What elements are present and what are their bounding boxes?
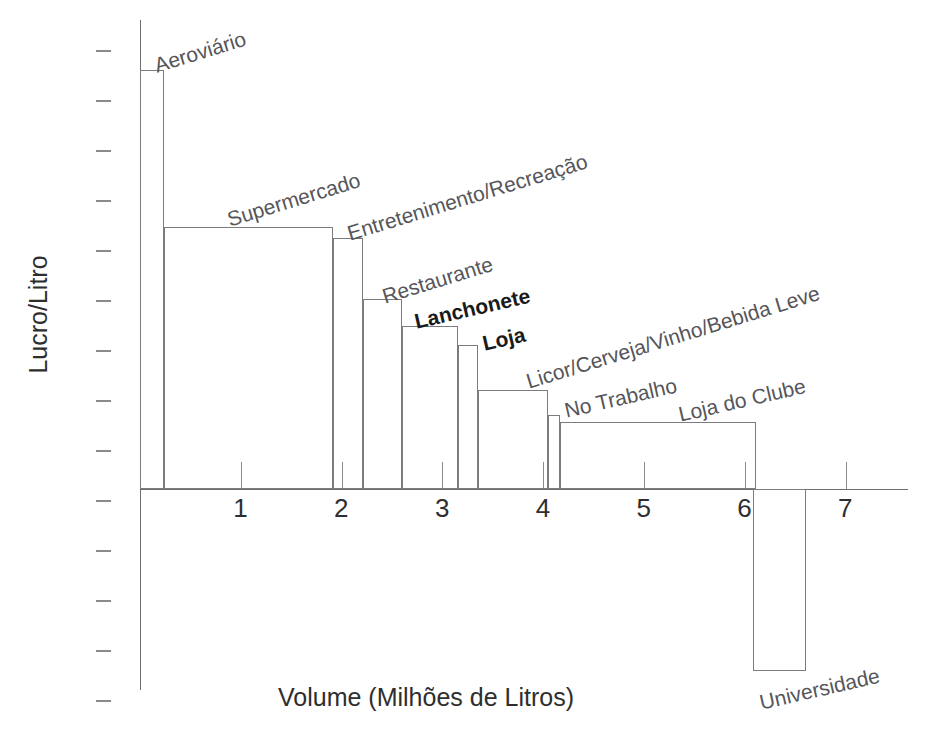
y-axis-tick (96, 550, 111, 552)
y-axis-tick (96, 200, 111, 202)
y-axis-tick (96, 250, 111, 252)
bar-label-aeroviario: Aeroviário (151, 27, 248, 78)
y-axis-tick (96, 600, 111, 602)
chart-canvas: 1234567 AeroviárioSupermercadoEntretenim… (0, 0, 926, 737)
x-axis-tick-label: 5 (624, 493, 664, 524)
bar-lanchonete (402, 326, 457, 489)
bar-label-loja: Loja (480, 323, 527, 356)
y-axis-title: Lucro/Litro (24, 215, 53, 415)
bar-no-trabalho (548, 415, 560, 489)
y-axis-tick (96, 350, 111, 352)
y-axis-tick (96, 150, 111, 152)
bar-label-no-trabalho: No Trabalho (562, 374, 679, 423)
bar-label-universidade: Universidade (757, 664, 882, 715)
x-axis-tick-label: 3 (422, 493, 462, 524)
y-axis-tick (96, 450, 111, 452)
y-axis-tick (96, 50, 111, 52)
bar-label-supermercado: Supermercado (224, 168, 363, 231)
y-axis-tick (96, 400, 111, 402)
bar-label-entretenimento-recreacao: Entretenimento/Recreação (344, 149, 590, 245)
bar-supermercado (164, 227, 332, 489)
y-axis-tick (96, 300, 111, 302)
x-axis-tick-label: 2 (322, 493, 362, 524)
bar-aeroviario (140, 70, 164, 489)
bar-restaurante (363, 299, 402, 489)
bar-loja-do-clube (560, 422, 756, 489)
bar-licor-cerveja-vinho-bebida-leve (478, 390, 549, 489)
y-axis-tick (96, 700, 111, 702)
y-axis-tick (96, 650, 111, 652)
x-axis-tick-label: 7 (826, 493, 866, 524)
x-axis-tick-label: 4 (523, 493, 563, 524)
bar-loja (458, 345, 478, 489)
y-axis-tick (96, 500, 111, 502)
bar-entretenimento-recreacao (333, 238, 363, 489)
x-axis-tick (846, 462, 847, 489)
x-axis-title: Volume (Milhões de Litros) (278, 683, 574, 712)
bar-universidade (753, 489, 806, 671)
bar-label-loja-do-clube: Loja do Clube (676, 374, 808, 427)
y-axis-tick (96, 100, 111, 102)
x-axis-tick-label: 1 (221, 493, 261, 524)
